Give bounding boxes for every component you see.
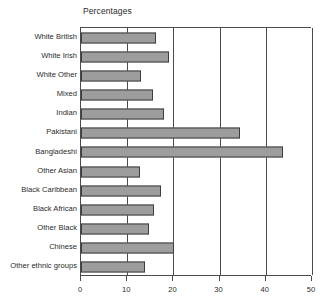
bar-row <box>81 162 311 181</box>
x-axis-tick-label: 50 <box>307 285 315 294</box>
bar <box>81 147 283 158</box>
x-axis-tick-label: 0 <box>78 285 82 294</box>
gridline-50 <box>312 28 313 275</box>
bar-row <box>81 181 311 200</box>
x-axis-tick <box>219 276 220 281</box>
category-label: White Other <box>36 71 77 79</box>
bar-row <box>81 66 311 85</box>
bar-row <box>81 105 311 124</box>
x-axis-tick <box>265 276 266 281</box>
bar <box>81 128 240 139</box>
category-label: Other ethnic groups <box>10 262 77 270</box>
bar-rows <box>81 28 311 275</box>
x-axis-tick <box>80 276 81 281</box>
bar <box>81 70 141 81</box>
category-label: Other Black <box>37 224 77 232</box>
x-axis-tick-label: 30 <box>214 285 222 294</box>
plot-area <box>80 27 311 276</box>
bar <box>81 32 156 43</box>
bar <box>81 90 153 101</box>
bar <box>81 109 164 120</box>
bar-row <box>81 124 311 143</box>
category-label: Pakistani <box>46 128 77 136</box>
x-axis-tick <box>172 276 173 281</box>
bar-row <box>81 220 311 239</box>
bar-row <box>81 47 311 66</box>
category-label: Other Asian <box>37 167 77 175</box>
category-label: White Irish <box>41 52 77 60</box>
bar <box>81 243 174 254</box>
bar-row <box>81 258 311 277</box>
bar-row <box>81 200 311 219</box>
chart-title: Percentages <box>83 6 132 16</box>
x-axis-tick-label: 40 <box>261 285 269 294</box>
bar <box>81 224 149 235</box>
x-axis-tick-label: 10 <box>122 285 130 294</box>
category-label: White British <box>34 33 77 41</box>
category-label: Black Caribbean <box>21 186 77 194</box>
category-label: Bangladeshi <box>35 148 77 156</box>
bar-row <box>81 28 311 47</box>
bar <box>81 185 161 196</box>
x-axis-tick-label: 20 <box>168 285 176 294</box>
category-label: Black African <box>33 205 77 213</box>
x-axis-tick <box>126 276 127 281</box>
bar <box>81 51 169 62</box>
bar-chart: Percentages White BritishWhite IrishWhit… <box>0 0 333 308</box>
bar-row <box>81 85 311 104</box>
bar-row <box>81 143 311 162</box>
category-label: Indian <box>56 109 77 117</box>
category-label: Mixed <box>57 90 77 98</box>
bar <box>81 262 145 273</box>
bar <box>81 204 154 215</box>
category-label: Chinese <box>49 243 77 251</box>
bar <box>81 166 140 177</box>
x-axis-tick <box>311 276 312 281</box>
bar-row <box>81 239 311 258</box>
